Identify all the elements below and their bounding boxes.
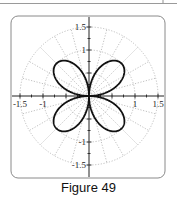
y-tick-label: -1 bbox=[79, 137, 87, 147]
x-tick-label: 1 bbox=[133, 99, 138, 109]
x-tick-label: -1.5 bbox=[13, 99, 28, 109]
figure-caption: Figure 49 bbox=[0, 180, 177, 195]
y-tick-label: 1.5 bbox=[75, 22, 87, 32]
x-tick-label: 1.5 bbox=[152, 99, 164, 109]
y-tick-label: 1 bbox=[82, 45, 87, 55]
x-tick-label: -1 bbox=[39, 99, 47, 109]
y-tick-label: -1.5 bbox=[72, 160, 87, 170]
polar-plot: -1.5-111.51.51-1-1.5 bbox=[0, 0, 177, 199]
